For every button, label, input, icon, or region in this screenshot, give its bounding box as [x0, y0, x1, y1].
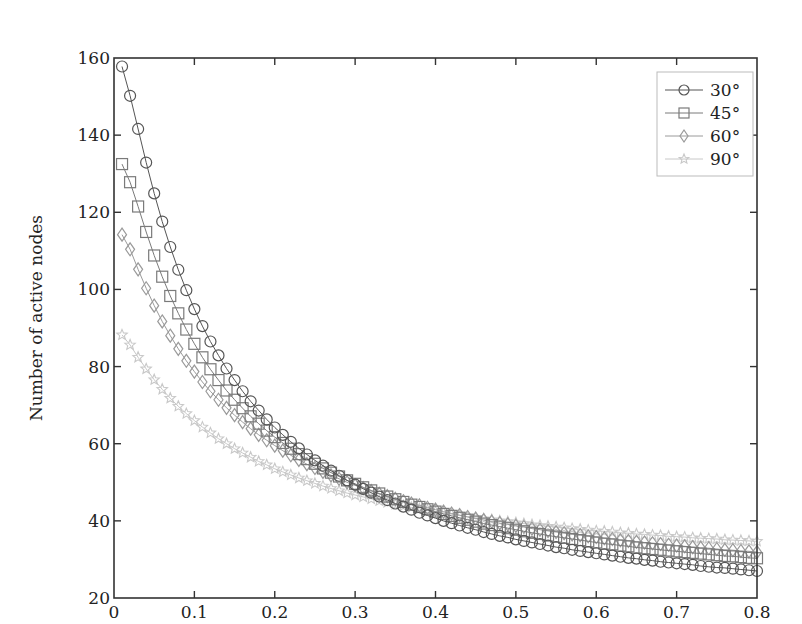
y-tick-label: 40: [88, 511, 110, 531]
legend: 30°45°60°90°: [657, 72, 753, 176]
x-tick-label: 0.5: [502, 602, 529, 622]
series-45deg: [117, 159, 763, 564]
y-tick-label: 60: [88, 434, 110, 454]
x-tick-label: 0.4: [422, 602, 449, 622]
y-axis: 20406080100120140160: [78, 48, 757, 608]
legend-label: 60°: [710, 126, 740, 146]
x-tick-label: 0.3: [342, 602, 369, 622]
y-tick-label: 20: [88, 588, 110, 608]
legend-label: 90°: [710, 149, 740, 169]
series-60deg: [118, 228, 762, 558]
y-tick-label: 80: [88, 357, 110, 377]
x-tick-label: 0.1: [181, 602, 208, 622]
y-tick-label: 120: [78, 202, 110, 222]
star-marker-icon: [117, 329, 128, 339]
circle-marker-icon: [117, 61, 128, 72]
y-axis-title: Number of active nodes: [26, 215, 46, 421]
x-tick-label: 0.8: [743, 602, 770, 622]
legend-label: 30°: [710, 80, 740, 100]
line-chart: 00.10.20.30.40.50.60.70.8 20406080100120…: [0, 0, 802, 624]
x-tick-label: 0.2: [261, 602, 288, 622]
x-tick-label: 0.6: [583, 602, 610, 622]
x-tick-label: 0: [109, 602, 120, 622]
x-tick-label: 0.7: [663, 602, 690, 622]
y-tick-label: 160: [78, 48, 110, 68]
diamond-marker-icon: [118, 228, 127, 241]
legend-label: 45°: [710, 103, 740, 123]
y-tick-label: 140: [78, 125, 110, 145]
y-tick-label: 100: [78, 279, 110, 299]
square-marker-icon: [117, 159, 128, 170]
series-line: [122, 235, 757, 552]
